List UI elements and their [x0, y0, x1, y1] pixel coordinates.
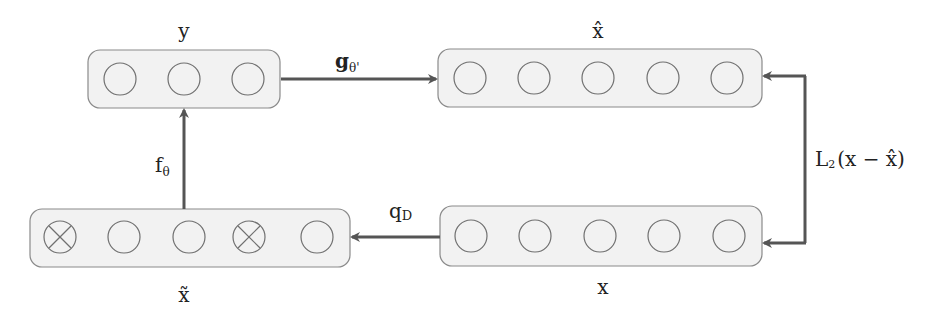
edge-label-sub: 2	[828, 158, 835, 171]
svg-text:qD: qD	[389, 199, 412, 223]
corrupted-node-icon	[44, 221, 76, 253]
node	[168, 63, 200, 95]
edge-label-sub: θ'	[349, 61, 360, 75]
layer-label-x-hat: x̂	[592, 19, 604, 43]
node	[582, 62, 614, 94]
edge-label-main: L	[815, 147, 828, 171]
node	[108, 221, 140, 253]
svg-text:L2(x − x̂): L2(x − x̂)	[815, 147, 905, 171]
layer-x-tilde: x̃	[30, 209, 350, 307]
svg-text:fθ: fθ	[155, 153, 170, 179]
corrupted-node-icon	[233, 221, 265, 253]
node	[647, 62, 679, 94]
edge-label-main: q	[389, 199, 402, 223]
node	[518, 62, 550, 94]
svg-text:gθ': gθ'	[335, 49, 360, 75]
node	[173, 221, 205, 253]
layer-label-x: x	[597, 275, 609, 299]
node	[648, 220, 680, 252]
node	[104, 63, 136, 95]
autoencoder-diagram: y x̂ x x̃	[0, 0, 933, 323]
layer-label-y: y	[177, 19, 190, 43]
node	[519, 220, 551, 252]
edge-q-d: qD	[352, 199, 440, 237]
layer-x-hat: x̂	[438, 19, 762, 107]
node	[711, 62, 743, 94]
edge-f-theta: fθ	[155, 110, 184, 209]
layer-x: x	[440, 206, 762, 299]
node	[713, 220, 745, 252]
node	[454, 62, 486, 94]
node	[301, 221, 333, 253]
node	[232, 63, 264, 95]
edge-g-theta-prime: gθ'	[281, 49, 436, 79]
edge-label-sub: θ	[162, 165, 169, 179]
node	[584, 220, 616, 252]
edge-label-main: g	[335, 49, 349, 73]
layer-y: y	[88, 19, 280, 108]
edge-label-rest: (x − x̂)	[837, 147, 905, 171]
edge-label-sub: D	[402, 208, 412, 223]
edge-l2-loss: L2(x − x̂)	[764, 76, 905, 243]
layer-label-x-tilde: x̃	[178, 283, 190, 307]
node	[455, 220, 487, 252]
